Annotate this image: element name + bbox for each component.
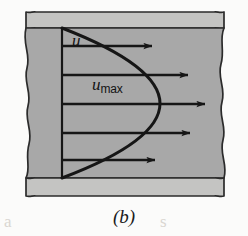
max-velocity-symbol: u [92,75,101,94]
figure-canvas [0,0,248,236]
max-velocity-label: umax [92,76,123,95]
max-velocity-subscript: max [101,82,123,96]
velocity-profile-figure: u umax (b) a s [0,0,248,236]
top-wall [26,12,224,29]
bottom-wall [26,178,224,197]
velocity-label: u [72,32,81,49]
figure-caption: (b) [0,206,248,228]
